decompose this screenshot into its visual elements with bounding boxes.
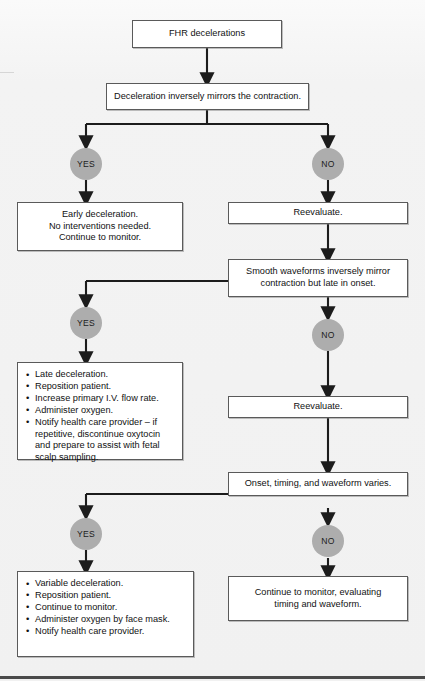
list-item: Notify health care provider – if repetit…	[26, 417, 175, 465]
node-question-mirrors-contraction[interactable]: Deceleration inversely mirrors the contr…	[106, 83, 309, 110]
node-early-deceleration-line-3: Continue to monitor.	[59, 232, 141, 244]
late-deceleration-bullet-list: Late deceleration. Reposition patient. I…	[26, 369, 175, 464]
decision-no-3-label: NO	[321, 536, 334, 546]
node-early-deceleration[interactable]: Early deceleration. No interventions nee…	[17, 202, 183, 251]
list-item: Notify health care provider.	[26, 626, 186, 638]
node-question-onset-timing[interactable]: Onset, timing, and waveform varies.	[228, 472, 408, 496]
list-item: Reposition patient.	[26, 381, 175, 393]
list-item: Administer oxygen.	[26, 405, 175, 417]
list-item: Administer oxygen by face mask.	[26, 614, 186, 626]
node-question-smooth-waveforms[interactable]: Smooth waveforms inversely mirror contra…	[228, 259, 408, 297]
node-question-mirrors-contraction-label: Deceleration inversely mirrors the contr…	[114, 91, 301, 103]
node-start-label: FHR decelerations	[169, 28, 245, 40]
node-variable-deceleration[interactable]: Variable deceleration. Reposition patien…	[17, 571, 194, 657]
top-divider	[0, 72, 14, 73]
node-reevaluate-1-label: Reevaluate.	[293, 207, 342, 219]
node-continue-to-monitor[interactable]: Continue to monitor, evaluating timing a…	[228, 576, 408, 621]
decision-no-2[interactable]: NO	[312, 319, 344, 351]
node-continue-to-monitor-line-2: timing and waveform.	[274, 599, 361, 611]
node-start[interactable]: FHR decelerations	[132, 20, 282, 48]
flowchart-page: FHR decelerations Deceleration inversely…	[0, 0, 425, 681]
decision-no-1-label: NO	[321, 159, 334, 169]
list-item: Increase primary I.V. flow rate.	[26, 393, 175, 405]
list-item: Reposition patient.	[26, 590, 186, 602]
node-continue-to-monitor-line-1: Continue to monitor, evaluating	[255, 587, 382, 599]
list-item: Variable deceleration.	[26, 578, 186, 590]
list-item: Continue to monitor.	[26, 602, 186, 614]
decision-yes-3[interactable]: YES	[70, 518, 102, 550]
decision-no-1[interactable]: NO	[312, 148, 344, 180]
node-late-deceleration[interactable]: Late deceleration. Reposition patient. I…	[17, 362, 183, 460]
node-question-smooth-waveforms-label: Smooth waveforms inversely mirror contra…	[234, 266, 402, 289]
node-early-deceleration-line-2: No interventions needed.	[49, 221, 151, 233]
decision-no-3[interactable]: NO	[312, 525, 344, 557]
node-reevaluate-2[interactable]: Reevaluate.	[228, 396, 408, 418]
node-reevaluate-1[interactable]: Reevaluate.	[228, 202, 408, 224]
decision-yes-2-label: YES	[77, 318, 95, 328]
node-question-onset-timing-label: Onset, timing, and waveform varies.	[245, 478, 392, 490]
bottom-divider	[0, 676, 425, 679]
node-reevaluate-2-label: Reevaluate.	[293, 401, 342, 413]
decision-yes-2[interactable]: YES	[70, 307, 102, 339]
node-early-deceleration-line-1: Early deceleration.	[62, 209, 138, 221]
decision-yes-1[interactable]: YES	[70, 148, 102, 180]
variable-deceleration-bullet-list: Variable deceleration. Reposition patien…	[26, 578, 186, 638]
decision-no-2-label: NO	[321, 330, 334, 340]
decision-yes-3-label: YES	[77, 529, 95, 539]
list-item: Late deceleration.	[26, 369, 175, 381]
decision-yes-1-label: YES	[77, 159, 95, 169]
